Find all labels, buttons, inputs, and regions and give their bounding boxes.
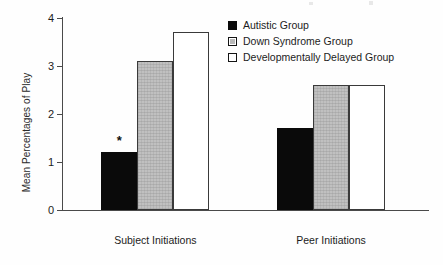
significance-asterisk: * [117,134,122,147]
scan-artifact [369,1,373,5]
y-axis-tick-mark [57,162,62,163]
y-axis-tick-mark [57,210,62,211]
legend-item-label: Developmentally Delayed Group [243,52,394,63]
y-axis-tick-mark [57,18,62,19]
y-axis-tick-label: 0 [48,205,54,216]
legend-item-label: Down Syndrome Group [243,36,353,47]
bar [101,152,137,210]
bar [349,85,385,210]
bar-chart-figure: Mean Percentages of Play 01234Subject In… [0,0,443,265]
legend-item: Down Syndrome Group [228,35,394,48]
x-axis-group-label: Peer Initiations [296,234,365,246]
legend-swatch-icon [228,21,237,30]
legend-item: Autistic Group [228,19,394,32]
y-axis-tick-label: 1 [48,157,54,168]
bar [313,85,349,210]
bar [137,61,173,210]
legend-swatch-icon [228,53,237,62]
x-axis-line [62,210,429,211]
legend-swatch-icon [228,37,237,46]
y-axis-tick-label: 2 [48,109,54,120]
y-axis-label: Mean Percentages of Play [18,0,36,265]
scan-artifact [309,2,313,5]
y-axis-tick-label: 3 [48,61,54,72]
legend-item: Developmentally Delayed Group [228,51,394,64]
bar [173,32,209,210]
y-axis-tick-mark [57,66,62,67]
y-axis-tick-mark [57,114,62,115]
legend-item-label: Autistic Group [243,20,309,31]
legend: Autistic GroupDown Syndrome GroupDevelop… [228,19,394,64]
bar [277,128,313,210]
y-axis-tick-label: 4 [48,13,54,24]
x-axis-group-label: Subject Initiations [114,234,196,246]
